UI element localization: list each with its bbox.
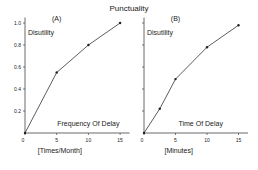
data-point (159, 108, 161, 110)
x-tick-label: 15 (236, 137, 242, 143)
data-point (206, 46, 208, 48)
y-tick-label: 0.6 (14, 64, 21, 70)
data-point (143, 132, 145, 134)
data-line (25, 23, 120, 133)
y-tick-label: 1.0 (14, 20, 21, 26)
y-axis-label: Disutility (28, 29, 55, 37)
data-line (144, 25, 239, 133)
chart-panel-a: 0.20.40.60.81.0051015(A)DisutilityFreque… (14, 15, 130, 155)
data-point (87, 44, 89, 46)
x-tick-label: 5 (55, 137, 58, 143)
series-title: Frequency Of Delay (57, 120, 120, 128)
x-tick-label: 10 (204, 137, 210, 143)
data-point (24, 132, 26, 134)
series-title: Time Of Delay (178, 120, 223, 128)
y-tick-label: 0.2 (14, 108, 21, 114)
data-point (237, 24, 239, 26)
data-point (174, 78, 176, 80)
x-tick-label: 0 (22, 137, 25, 143)
chart-canvas: 0.20.40.60.81.0051015(A)DisutilityFreque… (0, 0, 258, 170)
chart-panel-b: 051015(B)DisutilityTime Of Delay[Minutes… (141, 15, 248, 155)
y-tick-label: 0.8 (14, 42, 21, 48)
x-axis-label: [Minutes] (164, 147, 192, 155)
data-point (119, 22, 121, 24)
y-tick-label: 0.4 (14, 86, 21, 92)
x-tick-label: 0 (141, 137, 144, 143)
data-point (56, 71, 58, 73)
x-tick-label: 15 (117, 137, 123, 143)
y-axis-label: Disutility (147, 29, 174, 37)
panel-label: (B) (171, 15, 180, 23)
x-axis-label: [Times/Month] (38, 147, 82, 155)
x-tick-label: 5 (174, 137, 177, 143)
panel-label: (A) (52, 15, 61, 23)
x-tick-label: 10 (86, 137, 92, 143)
